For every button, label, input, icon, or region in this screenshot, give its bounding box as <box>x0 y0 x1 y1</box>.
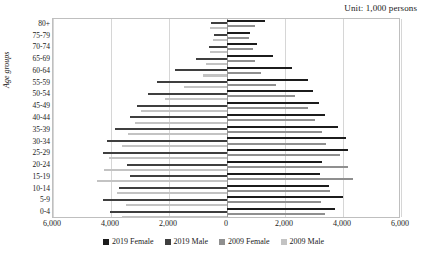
bar <box>227 131 322 133</box>
bar <box>128 133 227 135</box>
bar <box>107 140 227 142</box>
chart-legend: 2019 Female2019 Male2009 Female2009 Male <box>0 237 427 246</box>
bar <box>209 46 227 48</box>
age-group-row <box>53 101 399 113</box>
population-pyramid-chart: Unit: 1,000 persons Age groups 80+75-797… <box>0 0 427 261</box>
bar <box>227 79 308 81</box>
bar <box>227 102 319 104</box>
legend-item[interactable]: 2009 Male <box>281 237 324 246</box>
bar <box>203 74 227 76</box>
y-axis-tick: 80+ <box>2 19 50 28</box>
bar <box>196 58 227 60</box>
bar <box>227 72 261 74</box>
bar <box>103 152 227 154</box>
bar <box>227 126 338 128</box>
bar <box>227 43 257 45</box>
bar-rows <box>53 19 399 217</box>
legend-item[interactable]: 2009 Female <box>219 237 270 246</box>
bar <box>227 67 292 69</box>
bar <box>227 208 335 210</box>
bar <box>227 201 321 203</box>
bar <box>157 81 227 83</box>
y-axis-tick: 70-74 <box>2 42 50 51</box>
age-group-row <box>53 148 399 160</box>
bar <box>130 175 227 177</box>
bar <box>126 204 227 206</box>
legend-label: 2019 Female <box>112 237 154 246</box>
legend-item[interactable]: 2019 Female <box>103 237 154 246</box>
bar <box>227 185 329 187</box>
bar <box>227 20 265 22</box>
age-group-row <box>53 137 399 149</box>
y-axis-tick: 50-54 <box>2 89 50 98</box>
bar <box>213 39 227 41</box>
legend-swatch-icon <box>103 239 109 245</box>
bar <box>227 154 340 156</box>
legend-label: 2009 Female <box>228 237 270 246</box>
bar <box>103 199 227 201</box>
bar <box>184 86 228 88</box>
age-group-row <box>53 184 399 196</box>
bar <box>227 55 273 57</box>
bar <box>109 157 227 159</box>
bar <box>227 60 255 62</box>
legend-item[interactable]: 2019 Male <box>165 237 208 246</box>
y-axis-tick: 25-29 <box>2 148 50 157</box>
x-axis-tick: 4,000 <box>333 219 351 228</box>
bar <box>227 178 353 180</box>
y-axis-tick: 40-44 <box>2 113 50 122</box>
bar <box>137 105 227 107</box>
age-group-row <box>53 195 399 207</box>
bar <box>135 122 227 124</box>
y-axis-tick-labels: 80+75-7970-7465-6960-6455-5950-5445-4940… <box>0 18 50 218</box>
bar <box>227 119 315 121</box>
age-group-row <box>53 160 399 172</box>
bar <box>227 114 325 116</box>
bar <box>148 93 227 95</box>
y-axis-tick: 65-69 <box>2 54 50 63</box>
legend-label: 2019 Male <box>174 237 208 246</box>
bar <box>117 192 227 194</box>
y-axis-tick: 75-79 <box>2 31 50 40</box>
bar <box>206 63 227 65</box>
bar <box>119 187 227 189</box>
bar <box>104 169 227 171</box>
x-axis-tick-labels: 6,0004,0002,00002,0004,0006,000 <box>52 219 400 233</box>
bar <box>227 25 255 27</box>
bar <box>214 34 227 36</box>
bar <box>227 173 320 175</box>
y-axis-tick: 45-49 <box>2 101 50 110</box>
age-group-row <box>53 125 399 137</box>
gridline <box>401 19 402 217</box>
bar <box>227 95 295 97</box>
age-group-row <box>53 66 399 78</box>
age-group-row <box>53 31 399 43</box>
bar <box>227 90 313 92</box>
bar <box>227 84 276 86</box>
bar <box>227 143 326 145</box>
bar <box>227 32 250 34</box>
bar <box>210 27 227 29</box>
y-axis-tick: 60-64 <box>2 66 50 75</box>
bar <box>227 161 322 163</box>
bar <box>122 216 227 218</box>
x-axis-tick: 6,000 <box>43 219 61 228</box>
age-group-row <box>53 113 399 125</box>
bar <box>227 213 325 215</box>
y-axis-tick: 20-24 <box>2 160 50 169</box>
bar <box>175 69 227 71</box>
bar <box>141 110 227 112</box>
bar <box>210 51 227 53</box>
bar <box>227 190 330 192</box>
x-axis-tick: 0 <box>224 219 228 228</box>
x-axis-tick: 2,000 <box>159 219 177 228</box>
bar <box>130 116 227 118</box>
plot-area <box>52 18 400 218</box>
age-group-row <box>53 207 399 219</box>
unit-note: Unit: 1,000 persons <box>344 3 417 13</box>
y-axis-tick: 30-34 <box>2 137 50 146</box>
bar <box>227 196 343 198</box>
bar <box>227 149 348 151</box>
bar <box>110 211 227 213</box>
legend-label: 2009 Male <box>290 237 324 246</box>
